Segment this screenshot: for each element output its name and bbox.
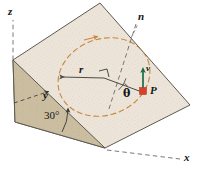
particle-marker [140,88,147,95]
y-axis-label: y [43,90,48,101]
z-axis-label: z [8,6,12,17]
figure-container: z y x n r θ P v 30° [0,0,203,174]
velocity-label: v [146,64,150,73]
theta-angle-label: θ [123,88,130,99]
incline-angle-label: 30° [44,110,59,121]
wedge-diagram [0,0,203,174]
x-axis-label: x [184,152,190,163]
x-axis-line [107,150,180,159]
n-leader-line [131,24,138,38]
particle-label: P [150,85,157,96]
radius-label: r [79,64,83,75]
normal-axis-label: n [138,11,144,22]
